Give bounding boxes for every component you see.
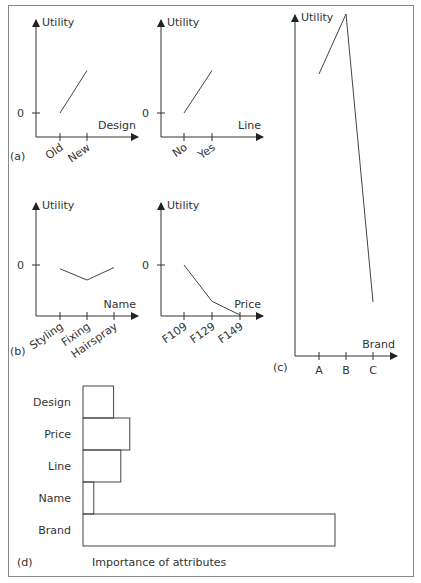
x-tick-label-c-1: B: [342, 364, 350, 377]
panel-label-d: (d): [17, 556, 33, 569]
x-tick-label-a1-1: New: [66, 141, 93, 165]
x-tick-label-b1-0: Styling: [27, 320, 65, 352]
bar-chart-title: Importance of attributes: [92, 556, 227, 569]
bar-name: [83, 482, 94, 514]
utility-line-b2: [184, 265, 240, 315]
x-tick-label-c-2: C: [369, 364, 377, 377]
y-axis-label-b1: Utility: [42, 199, 75, 212]
x-tick-label-b2-2: F149: [216, 320, 246, 346]
x-tick-label-a1-0: Old: [43, 141, 66, 162]
x-tick-label-a2-1: Yes: [195, 141, 218, 163]
conjoint-figure: UtilityDesign0OldNew(a)UtilityLine0NoYes…: [0, 0, 421, 583]
y-axis-label-c: Utility: [301, 11, 334, 24]
y-axis-label-a1: Utility: [42, 16, 75, 29]
utility-line-a2: [184, 71, 212, 114]
bar-label-name: Name: [39, 492, 72, 505]
zero-tick-label-a2: 0: [142, 107, 149, 120]
panel-label-b1: (b): [10, 345, 26, 358]
panel-label-a1: (a): [10, 150, 25, 163]
x-tick-label-b2-0: F109: [160, 320, 190, 346]
bar-brand: [83, 514, 335, 546]
x-axis-label-b1: Name: [104, 298, 137, 311]
panel-label-c: (c): [273, 361, 288, 374]
x-tick-label-b2-1: F129: [188, 320, 218, 346]
x-tick-label-a2-0: No: [170, 141, 190, 160]
bar-design: [83, 386, 114, 418]
utility-line-b1: [60, 268, 114, 281]
x-axis-label-a1: Design: [98, 119, 136, 132]
zero-tick-label-b2: 0: [142, 259, 149, 272]
x-axis-label-b2: Price: [234, 298, 261, 311]
bar-label-brand: Brand: [38, 524, 71, 537]
y-axis-label-a2: Utility: [167, 16, 200, 29]
zero-tick-label-a1: 0: [17, 107, 24, 120]
utility-line-a1: [60, 71, 87, 114]
bar-label-design: Design: [33, 396, 71, 409]
bar-line: [83, 450, 121, 482]
x-tick-label-c-0: A: [315, 364, 323, 377]
x-axis-label-a2: Line: [238, 119, 261, 132]
bar-price: [83, 418, 130, 450]
bar-label-line: Line: [48, 460, 71, 473]
zero-tick-label-b1: 0: [17, 259, 24, 272]
x-axis-label-c: Brand: [362, 338, 395, 351]
bar-label-price: Price: [44, 428, 71, 441]
utility-line-c: [319, 14, 373, 302]
y-axis-label-b2: Utility: [167, 199, 200, 212]
